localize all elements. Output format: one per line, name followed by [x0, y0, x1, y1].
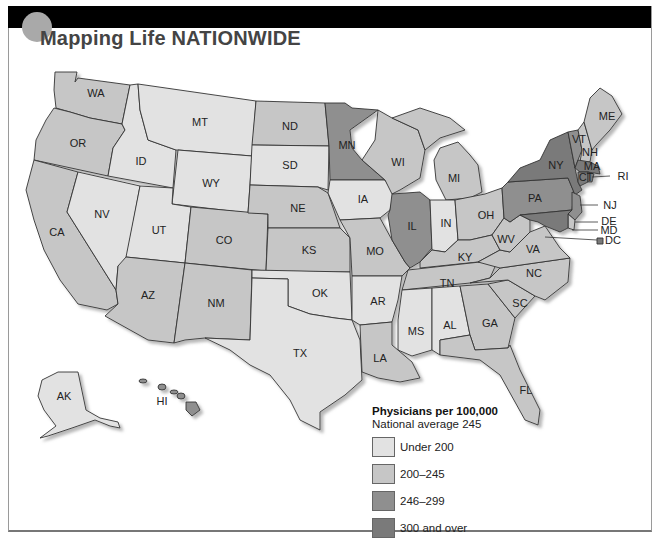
label-WV: WV — [497, 233, 515, 245]
label-KS: KS — [302, 244, 317, 256]
label-ID: ID — [136, 155, 147, 167]
label-AK: AK — [57, 390, 72, 402]
label-IL: IL — [407, 220, 416, 232]
label-MO: MO — [366, 245, 384, 257]
label-NC: NC — [526, 267, 542, 279]
label-NY: NY — [548, 159, 564, 171]
label-HI: HI — [157, 395, 168, 407]
state-AK[interactable] — [38, 372, 120, 438]
label-ME: ME — [599, 110, 616, 122]
state-MS[interactable] — [398, 288, 432, 356]
label-MS: MS — [408, 325, 425, 337]
legend-item-246-299: 246–299 — [372, 490, 498, 511]
legend-label: 246–299 — [400, 495, 445, 507]
label-IN: IN — [441, 217, 452, 229]
legend-title: Physicians per 100,000 — [372, 405, 498, 417]
legend-label: 200–245 — [400, 468, 445, 480]
label-PA: PA — [528, 192, 543, 204]
label-OH: OH — [478, 209, 495, 221]
label-TN: TN — [440, 277, 455, 289]
label-AR: AR — [370, 295, 385, 307]
label-LA: LA — [373, 352, 387, 364]
label-UT: UT — [152, 224, 167, 236]
legend-subtitle: National average 245 — [372, 418, 498, 430]
label-WY: WY — [202, 177, 220, 189]
legend-swatch — [372, 437, 395, 457]
label-RI: RI — [618, 170, 629, 182]
label-WA: WA — [87, 87, 105, 99]
label-CO: CO — [216, 234, 233, 246]
label-OK: OK — [312, 287, 329, 299]
label-NJ: NJ — [603, 199, 616, 211]
label-OR: OR — [70, 137, 87, 149]
label-WI: WI — [391, 156, 404, 168]
label-SC: SC — [512, 297, 527, 309]
label-AZ: AZ — [141, 289, 155, 301]
label-CA: CA — [49, 226, 65, 238]
legend-swatch — [372, 491, 395, 511]
state-DC[interactable] — [597, 238, 603, 244]
label-NM: NM — [207, 297, 224, 309]
label-SD: SD — [282, 159, 297, 171]
label-KY: KY — [458, 251, 473, 263]
label-FL: FL — [520, 384, 533, 396]
label-GA: GA — [482, 317, 499, 329]
label-MT: MT — [192, 116, 208, 128]
label-AL: AL — [443, 319, 456, 331]
label-ND: ND — [282, 120, 298, 132]
label-NH: NH — [582, 146, 598, 158]
legend-item-300-over: 300 and over — [372, 517, 498, 538]
legend-item-under-200: Under 200 — [372, 436, 498, 457]
legend-label: Under 200 — [400, 441, 454, 453]
legend-label: 300 and over — [400, 522, 467, 534]
label-NV: NV — [94, 208, 110, 220]
label-NE: NE — [290, 202, 305, 214]
label-DC: DC — [605, 234, 621, 246]
label-IA: IA — [358, 193, 369, 205]
label-VT: VT — [572, 133, 586, 145]
label-MI: MI — [448, 172, 460, 184]
label-CT: CT — [579, 171, 594, 183]
legend-swatch — [372, 464, 395, 484]
label-TX: TX — [293, 347, 308, 359]
label-VA: VA — [526, 243, 541, 255]
legend-item-200-245: 200–245 — [372, 463, 498, 484]
legend-swatch — [372, 518, 395, 538]
label-MN: MN — [338, 139, 355, 151]
legend: Physicians per 100,000 National average … — [372, 405, 498, 538]
state-HI[interactable] — [139, 379, 200, 416]
us-map: WA OR CA NV ID MT WY UT CO AZ NM ND SD N… — [0, 0, 661, 539]
